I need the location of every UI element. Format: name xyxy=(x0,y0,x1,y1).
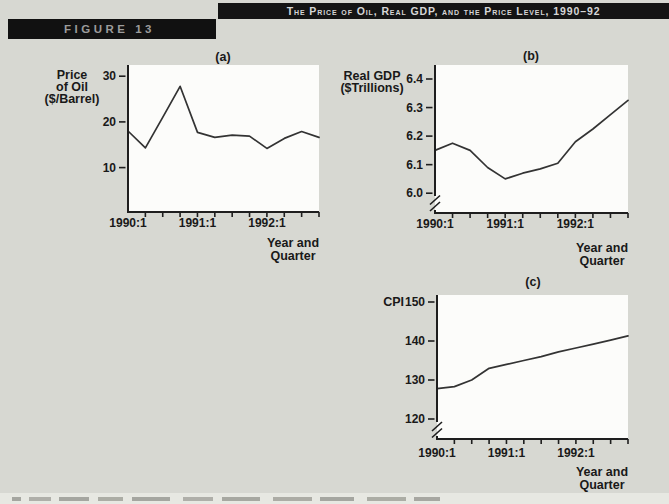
y-tick-label: 150 xyxy=(405,296,425,308)
y-tick-label: 20 xyxy=(103,116,116,128)
y-axis-label-line: CPI xyxy=(383,296,404,308)
x-axis-label-line: Year and xyxy=(576,242,628,254)
x-tick-label: 1991:1 xyxy=(486,218,523,230)
x-tick-label: 1990:1 xyxy=(418,447,455,459)
y-tick-label: 6.3 xyxy=(406,102,423,114)
x-tick-label: 1991:1 xyxy=(488,447,525,459)
chart-labels-layer: 1020301990:11991:11992:1(a)Priceof Oil($… xyxy=(0,0,669,504)
x-axis-label-line: Quarter xyxy=(579,255,624,267)
y-axis-label-line: Real GDP xyxy=(344,70,401,82)
y-tick-label: 6.0 xyxy=(406,187,423,199)
y-tick-label: 6.4 xyxy=(406,73,423,85)
y-tick-label: 6.2 xyxy=(406,130,423,142)
x-tick-label: 1991:1 xyxy=(179,217,216,229)
figure-number-box: FIGURE 13 xyxy=(8,19,216,39)
y-axis-label-line: ($/Barrel) xyxy=(45,93,100,105)
x-tick-label: 1992:1 xyxy=(557,447,594,459)
x-axis-label-line: Year and xyxy=(576,466,628,478)
y-tick-label: 120 xyxy=(405,413,425,425)
figure-title: The Price of Oil, Real GDP, and the Pric… xyxy=(287,5,601,17)
panel-label: (c) xyxy=(525,276,540,288)
cut-off-caption xyxy=(12,497,440,501)
y-axis-label-line: ($Trillions) xyxy=(340,82,403,94)
y-tick-label: 140 xyxy=(405,335,425,347)
x-tick-label: 1990:1 xyxy=(416,218,453,230)
title-bar: The Price of Oil, Real GDP, and the Pric… xyxy=(218,3,669,19)
x-axis-label-line: Quarter xyxy=(579,479,624,491)
x-tick-label: 1992:1 xyxy=(248,217,285,229)
figure-number: FIGURE 13 xyxy=(64,23,155,35)
charts-canvas xyxy=(0,0,669,504)
y-tick-label: 6.1 xyxy=(406,159,423,171)
y-axis-label-line: Price xyxy=(57,69,88,81)
y-tick-label: 130 xyxy=(405,374,425,386)
x-tick-label: 1990:1 xyxy=(109,217,146,229)
x-axis-label-line: Year and xyxy=(267,237,319,249)
y-tick-label: 10 xyxy=(103,162,116,174)
x-tick-label: 1992:1 xyxy=(557,218,594,230)
panel-label: (a) xyxy=(215,51,230,63)
y-tick-label: 30 xyxy=(103,70,116,82)
panel-label: (b) xyxy=(523,50,539,62)
x-axis-label-line: Quarter xyxy=(270,250,315,262)
y-axis-label-line: of Oil xyxy=(56,81,88,93)
